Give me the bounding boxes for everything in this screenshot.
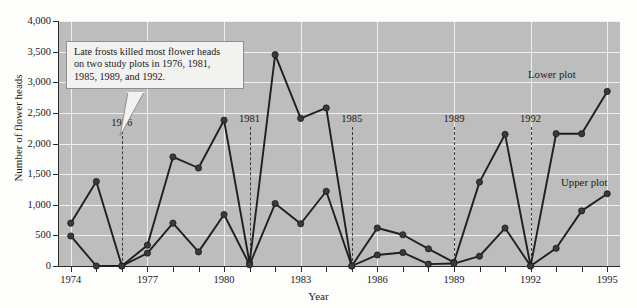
data-point (195, 165, 201, 171)
data-point (221, 211, 227, 217)
callout-tail-mask (127, 92, 145, 93)
data-point (579, 131, 585, 137)
series-label-lower-plot: Lower plot (528, 68, 576, 80)
data-point (170, 154, 176, 160)
callout-tail-shape (120, 92, 144, 136)
callout-line-1: Late frosts killed most flower heads (74, 46, 237, 58)
data-point (553, 131, 559, 137)
data-point (400, 249, 406, 255)
data-point (119, 263, 125, 269)
data-point (272, 52, 278, 58)
data-point (604, 191, 610, 197)
data-point (527, 263, 533, 269)
data-point (170, 220, 176, 226)
data-point (93, 178, 99, 184)
data-point (272, 200, 278, 206)
data-point (425, 246, 431, 252)
data-point (93, 263, 99, 269)
data-point (400, 232, 406, 238)
data-point (579, 208, 585, 214)
data-point (476, 253, 482, 259)
data-point (374, 252, 380, 258)
data-point (502, 225, 508, 231)
data-point (195, 249, 201, 255)
data-point (323, 105, 329, 111)
data-point (425, 261, 431, 267)
data-point (553, 245, 559, 251)
callout-line-3: 1985, 1989, and 1992. (74, 71, 237, 83)
data-point (298, 221, 304, 227)
data-point (298, 115, 304, 121)
callout-pointer (100, 92, 180, 140)
data-point (604, 88, 610, 94)
data-point (221, 117, 227, 123)
chart-figure: 05001,0001,5002,0002,5003,0003,5004,000 … (0, 0, 637, 308)
data-point (68, 233, 74, 239)
data-point (374, 225, 380, 231)
data-point (476, 179, 482, 185)
data-point (246, 262, 252, 268)
data-point (451, 260, 457, 266)
data-point (323, 188, 329, 194)
data-point (144, 242, 150, 248)
data-point (68, 220, 74, 226)
series-label-upper-plot: Upper plot (561, 176, 607, 188)
callout-line-2: on two study plots in 1976, 1981, (74, 58, 237, 70)
data-point (349, 263, 355, 269)
data-point (502, 131, 508, 137)
frost-callout-box: Late frosts killed most flower heads on … (66, 41, 244, 89)
data-point (144, 250, 150, 256)
